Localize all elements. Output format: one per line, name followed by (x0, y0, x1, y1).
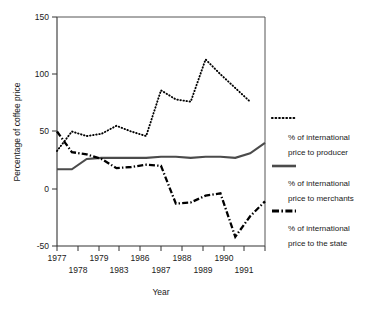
y-tick-label-100: 100 (35, 69, 49, 79)
x-tick-label-1991: 1991 (235, 265, 254, 275)
x-tick-label-1990: 1990 (215, 253, 234, 263)
y-tick-label-minus50: -50 (37, 241, 50, 251)
y-tick-label-50: 50 (40, 126, 50, 136)
chart-figure: 150 100 50 0 -50 1977 1979 1986 1988 199… (0, 0, 378, 314)
x-tick-label-1988: 1988 (173, 253, 192, 263)
y-tick-label-0: 0 (44, 184, 49, 194)
x-tick-label-1978: 1978 (69, 265, 88, 275)
legend-label-producer-line1: % of international (288, 133, 350, 142)
legend-label-state-line1: % of international (288, 224, 350, 233)
x-tick-label-1979: 1979 (90, 253, 109, 263)
y-axis-title: Percentage of coffee price (12, 82, 22, 181)
legend-label-merchants-line2: price to merchants (288, 194, 354, 203)
x-tick-label-1986: 1986 (131, 253, 150, 263)
coffee-price-line-chart: 150 100 50 0 -50 1977 1979 1986 1988 199… (0, 0, 378, 314)
x-tick-label-1989: 1989 (194, 265, 213, 275)
x-tick-label-1987: 1987 (152, 265, 171, 275)
y-tick-label-150: 150 (35, 12, 49, 22)
x-tick-label-1977: 1977 (48, 253, 67, 263)
legend-label-producer-line2: price to producer (288, 148, 348, 157)
x-tick-label-1983: 1983 (110, 265, 129, 275)
x-axis-title: Year (152, 287, 169, 297)
legend-label-state-line2: price to the state (288, 239, 348, 248)
legend-label-merchants-line1: % of international (288, 179, 350, 188)
